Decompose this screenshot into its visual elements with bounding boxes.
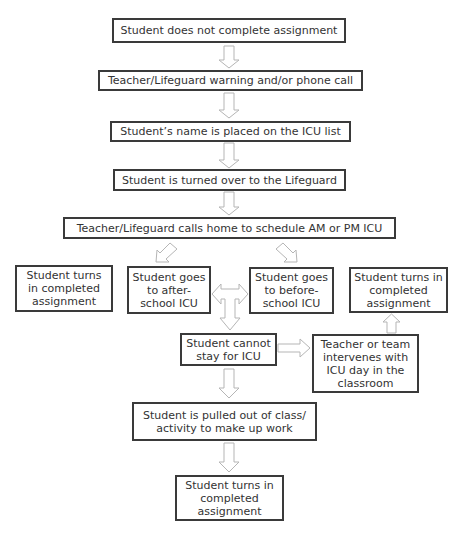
diagonal-arrow-icon (156, 243, 177, 262)
node-before-school-icu: Student goes to before-school ICU (249, 267, 334, 314)
up-arrow-icon (383, 314, 400, 333)
right-arrow-icon (278, 339, 310, 357)
node-turns-in-final: Student turns in completed assignment (175, 475, 284, 521)
down-arrow-icon (219, 143, 239, 168)
down-arrow-icon (219, 192, 239, 215)
down-arrow-icon (219, 369, 239, 398)
diagonal-arrow-icon (276, 243, 297, 262)
node-turns-in-left: Student turns in completed assignment (15, 265, 113, 312)
node-turns-in-right: Student turns in completed assignment (349, 267, 448, 313)
node-pulled-out-of-class: Student is pulled out of class/ activity… (132, 402, 317, 441)
node-teacher-intervenes: Teacher or team intervenes with ICU day … (312, 334, 419, 393)
double-arrow-t-icon (212, 284, 248, 330)
node-after-school-icu: Student goes to after-school ICU (127, 266, 211, 314)
node-incomplete-assignment: Student does not complete assignment (112, 18, 346, 43)
down-arrow-icon (219, 46, 239, 68)
node-warning-phone-call: Teacher/Lifeguard warning and/or phone c… (98, 70, 363, 91)
node-turned-over-lifeguard: Student is turned over to the Lifeguard (113, 169, 346, 191)
node-calls-home-schedule: Teacher/Lifeguard calls home to schedule… (63, 217, 396, 239)
node-placed-on-icu-list: Student’s name is placed on the ICU list (110, 121, 351, 142)
down-arrow-icon (219, 93, 239, 118)
node-cannot-stay: Student cannot stay for ICU (180, 333, 277, 366)
down-arrow-icon (219, 443, 239, 472)
